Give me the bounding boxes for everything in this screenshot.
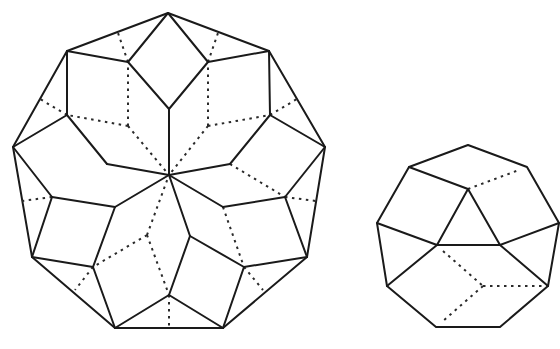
fold-line-dashed [147, 175, 169, 235]
fold-line-dashed [93, 235, 147, 267]
cut-line-solid [93, 207, 115, 267]
fold-line-dashed [468, 170, 519, 189]
cut-line-solid [377, 223, 437, 245]
fold-line-dashed [208, 115, 270, 126]
cut-line-solid [169, 236, 190, 295]
cut-line-solid [67, 115, 107, 164]
fold-line-dashed [128, 126, 169, 175]
cut-line-solid [107, 164, 169, 175]
cut-line-solid [169, 175, 223, 207]
cut-line-solid [128, 62, 169, 109]
cut-line-solid [223, 197, 285, 207]
cut-line-solid [169, 175, 190, 236]
fold-line-dashed [40, 99, 67, 115]
cut-line-solid [437, 189, 468, 245]
fold-line-dashed [443, 251, 483, 286]
cut-line-solid [409, 167, 468, 189]
cut-line-solid [52, 197, 115, 207]
small-nonagon-dissection [377, 145, 559, 327]
fold-line-dashed [285, 197, 316, 201]
fold-line-dashed [67, 115, 128, 126]
cut-line-solid [500, 223, 559, 245]
cut-line-solid [32, 197, 52, 257]
fold-line-dashed [270, 99, 297, 115]
fold-line-dashed [75, 267, 93, 290]
cut-line-solid [115, 295, 169, 328]
cut-line-solid [169, 295, 223, 328]
fold-line-dashed [230, 164, 285, 197]
cut-line-solid [285, 197, 307, 257]
cut-line-solid [115, 175, 169, 207]
cut-line-solid [169, 164, 230, 175]
nonagon-outline [377, 145, 559, 327]
cut-line-solid [468, 189, 500, 245]
fold-line-dashed [118, 33, 128, 62]
cut-line-solid [13, 147, 52, 197]
fold-line-dashed [22, 197, 52, 201]
fold-line-dashed [223, 207, 244, 267]
cut-line-solid [169, 62, 208, 109]
cut-line-solid [230, 115, 270, 164]
large-nonagon-dissection [13, 13, 325, 328]
cut-line-solid [67, 51, 128, 62]
fold-line-dashed [208, 33, 218, 62]
dissection-diagram [0, 0, 560, 349]
fold-line-dashed [244, 267, 263, 290]
cut-line-solid [208, 51, 269, 62]
fold-line-dashed [169, 126, 208, 175]
cut-line-solid [500, 245, 548, 286]
cut-line-solid [387, 245, 437, 286]
cut-line-solid [269, 51, 270, 115]
cut-line-solid [190, 236, 244, 267]
fold-line-dashed [147, 235, 169, 295]
fold-line-dashed [443, 286, 483, 321]
